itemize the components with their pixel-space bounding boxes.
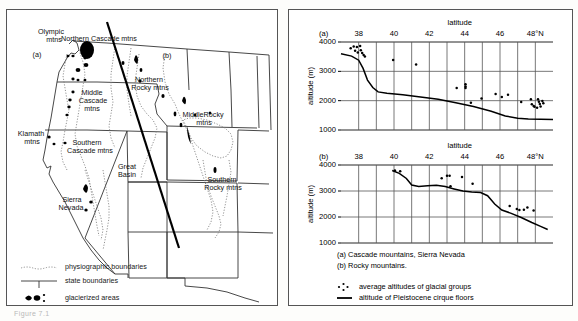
data-point [532,209,535,212]
map-label-northern-rocky2: Rocky mtns [131,83,169,92]
charts-svg: 1000200030004000384042444648°N(a)latitud… [289,10,570,303]
data-point [518,209,521,212]
ytick-label: 1000 [319,125,336,134]
data-point [480,97,483,100]
map-label-olympic2: mtns [46,35,62,44]
y-axis-title: altitude (m) [306,185,315,223]
map-label-middle-cascade3: mtns [84,104,100,113]
data-point [354,50,357,53]
data-point [530,98,533,101]
xtick-label: 40 [390,152,398,161]
data-point [352,45,355,48]
data-point [507,94,510,97]
data-point [533,106,536,109]
chart-legend-label-line: altitude of Pleistocene cirque floors [359,293,474,302]
ytick-label: 4000 [319,37,336,46]
xtick-label: 48°N [527,152,544,161]
map-label-panel-a: (a) [33,50,42,59]
data-point [508,205,511,208]
map-panel: OlympicmtnsNorthern Cascade mtns(a)(b)No… [6,9,278,306]
map-legend-label-state: state boundaries [65,276,118,285]
legend-dots-icon [338,283,349,291]
data-point [415,63,418,66]
data-point [446,174,449,177]
data-point [501,96,504,99]
data-point [520,101,523,104]
map-label-northern-cascade: Northern Cascade mtns [61,34,137,43]
data-point [537,98,540,101]
data-point [516,208,519,211]
xtick-label: 38 [354,29,362,38]
chart-panel: 1000200030004000384042444648°N(a)latitud… [288,9,573,306]
xtick-label: 46 [496,152,504,161]
cirque-floor-line [392,171,548,230]
data-point [392,59,395,62]
ytick-label: 3000 [319,186,336,195]
panel-label: (b) [319,152,329,161]
figure-root: OlympicmtnsNorthern Cascade mtns(a)(b)No… [0,0,578,321]
data-point [464,83,467,86]
data-point [356,46,359,49]
chart-legend [337,283,352,298]
ytick-label: 3000 [319,66,336,75]
x-axis-title: latitude [447,18,472,27]
data-point [470,101,473,104]
x-axis-title: latitude [447,141,472,150]
map-legend-label-glacierized: glacierized areas [65,293,119,302]
map-label-middle-rocky2: mtns [196,118,212,127]
data-point [464,87,467,90]
panel-label: (a) [319,29,329,38]
xtick-label: 42 [425,152,433,161]
data-point [542,102,545,105]
ytick-label: 2000 [319,212,336,221]
xtick-label: 46 [496,29,504,38]
chart-a: 1000200030004000384042444648°N(a)latitud… [306,18,553,134]
chart-legend-label-points: average altitudes of glacial groups [359,282,471,291]
map-label-great-basin2: Basin [118,170,136,179]
chart-b: 1000200030004000384042444648°N(b)latitud… [306,141,553,247]
data-point [357,51,360,54]
map-label-panel-b: (b) [163,51,172,60]
figure-caption: Figure 7.1 [14,310,50,317]
xtick-label: 48°N [527,29,544,38]
data-point [448,174,451,177]
xtick-label: 40 [390,29,398,38]
data-point [399,170,402,173]
xtick-label: 38 [354,152,362,161]
data-point [539,105,542,108]
map-label-southern-cascade2: Cascade mtns [67,146,113,155]
map-label-sierra-nevada2: Nevada [59,203,84,212]
data-point [455,87,458,90]
map-legend-label-physiographic: physiographic boundaries [65,262,147,271]
xtick-label: 44 [460,29,468,38]
data-point [536,106,539,109]
data-point [440,177,443,180]
data-point [541,100,544,103]
map-legend [21,267,57,302]
data-point [539,103,542,106]
data-point [349,47,352,50]
data-point [461,176,464,179]
ytick-label: 2000 [319,96,336,105]
chart-note-a: (a) Cascade mountains, Sierra Nevada [337,250,466,259]
map-svg: OlympicmtnsNorthern Cascade mtns(a)(b)No… [7,10,275,303]
y-axis-title: altitude (m) [306,67,315,105]
xtick-label: 44 [460,152,468,161]
ytick-label: 4000 [319,160,336,169]
data-point [364,55,367,58]
data-point [526,206,529,209]
xtick-label: 42 [425,29,433,38]
chart-note-b: (b) Rocky mountains. [337,261,407,270]
data-point [471,182,474,185]
ytick-label: 1000 [319,238,336,247]
data-point [359,45,362,48]
map-label-klamath2: mtns [24,137,40,146]
data-point [523,208,526,211]
data-point [494,93,497,96]
data-point [360,49,363,52]
map-label-southern-rocky2: Rocky mtns [204,183,242,192]
